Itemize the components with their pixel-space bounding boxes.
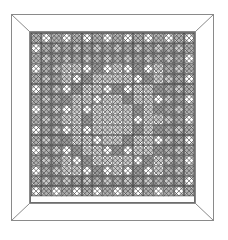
grid-cell [153,33,163,43]
grid-cell [143,125,153,135]
grid-cell [153,135,163,145]
grid-cell [133,74,143,84]
grid-cell [41,115,51,125]
grid-cell [72,43,82,53]
grid-cell [143,115,153,125]
grid-cell [123,64,133,74]
grid-cell [174,145,184,155]
grid-cell [51,135,61,145]
grid-cell [153,53,163,63]
grid-cell [31,33,41,43]
grid-cell [92,53,102,63]
grid-cell [31,53,41,63]
grid-cell [72,176,82,186]
grid-cell [174,53,184,63]
grid-cell [82,176,92,186]
grid-cell [164,186,174,196]
grid-cell [113,176,123,186]
grid-cell [31,135,41,145]
grid-cell [174,104,184,114]
grid-cell [123,33,133,43]
grid-cell [143,176,153,186]
grid-cell [92,145,102,155]
grid-cell [113,43,123,53]
grid-cell [72,145,82,155]
grid-cell [113,145,123,155]
grid-cell [143,155,153,165]
grid-cell [41,53,51,63]
grid-cell [164,64,174,74]
grid-cell [41,84,51,94]
grid-cell [164,115,174,125]
grid-cell [41,74,51,84]
grid-cell [153,74,163,84]
grid-cell [82,43,92,53]
grid-cell [153,145,163,155]
grid-cell [62,33,72,43]
grid-cell [133,155,143,165]
grid-cell [143,74,153,84]
grid-cell [153,43,163,53]
grid-cell [123,84,133,94]
grid-cell [51,145,61,155]
grid-cell [153,125,163,135]
grid-cell [113,53,123,63]
grid-cell [51,186,61,196]
grid-cell [174,94,184,104]
grid-cell [123,135,133,145]
grid-cell [184,135,194,145]
grid-cell [153,84,163,94]
grid-cell [143,43,153,53]
grid-cell [41,166,51,176]
grid-cell [113,104,123,114]
grid-cell [82,155,92,165]
grid-cell [174,166,184,176]
grid-cell [133,166,143,176]
grid-cell [51,176,61,186]
grid-cell [62,176,72,186]
grid-cell [92,115,102,125]
grid-cell [62,43,72,53]
grid-cell [184,176,194,186]
grid-cell [82,33,92,43]
grid-cell [92,155,102,165]
grid-cell [72,64,82,74]
grid-cell [92,84,102,94]
grid-cell [184,43,194,53]
grid-cell [174,155,184,165]
grid-cell [184,186,194,196]
grid-cell [62,74,72,84]
grid-cell [31,84,41,94]
grid-cell [92,125,102,135]
grid-cell [153,186,163,196]
grid-cell [133,125,143,135]
grid-cell [123,145,133,155]
grid-cell [82,115,92,125]
grid-cell [92,94,102,104]
grid-cell [31,125,41,135]
grid-cell [143,94,153,104]
grid-cell [51,115,61,125]
grid-cell [102,125,112,135]
grid-cell [31,94,41,104]
grid-cell [164,155,174,165]
grid-cell [41,104,51,114]
grid-cell [123,94,133,104]
grid-cell [113,94,123,104]
grid-cell [102,43,112,53]
grid-cell [113,64,123,74]
grid-cell [164,104,174,114]
grid-cell [82,74,92,84]
grid-cell [31,64,41,74]
grid-cell [102,115,112,125]
grid-cell [62,155,72,165]
grid-cell [31,115,41,125]
grid-cell [123,53,133,63]
grid-cell [82,64,92,74]
grid-cell [184,94,194,104]
grid-cell [92,166,102,176]
grid-cell [113,115,123,125]
grid-cell [102,176,112,186]
grid-cell [31,155,41,165]
grid-cell [62,64,72,74]
